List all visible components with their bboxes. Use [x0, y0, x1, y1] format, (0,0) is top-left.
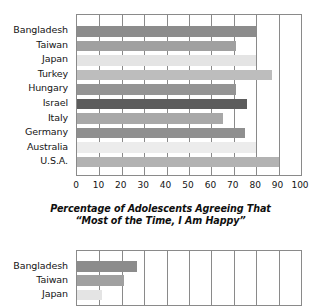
x-tick-label: 90	[266, 181, 290, 190]
category-label: Japan	[42, 289, 72, 299]
bar	[77, 26, 256, 37]
category-label: Hungary	[28, 83, 72, 93]
gridline	[256, 251, 257, 305]
category-label: Bangladesh	[13, 261, 72, 271]
bar	[77, 84, 236, 95]
bar	[77, 55, 256, 66]
gridline	[279, 251, 280, 305]
caption-line-2: “Most of the Time, I Am Happy”	[0, 215, 321, 227]
category-label: Japan	[42, 54, 72, 64]
x-tick-label: 10	[86, 181, 110, 190]
x-tick-label: 20	[109, 181, 133, 190]
category-label: Turkey	[38, 69, 72, 79]
category-label: Germany	[25, 127, 72, 137]
caption-line-1: Percentage of Adolescents Agreeing That	[50, 203, 271, 214]
top-chart-caption: Percentage of Adolescents Agreeing That …	[0, 203, 321, 227]
bar	[77, 128, 245, 139]
x-tick-label: 100	[288, 181, 312, 190]
happiness-chart: BangladeshTaiwanJapanTurkeyHungaryIsrael…	[0, 0, 321, 232]
x-tick-label: 0	[64, 181, 88, 190]
category-label: Taiwan	[36, 40, 72, 50]
category-label: Israel	[43, 98, 72, 108]
second-chart-partial: BangladeshTaiwanJapan	[0, 246, 321, 306]
bottom-chart-plot-area	[76, 250, 302, 306]
gridline	[189, 251, 190, 305]
bar	[77, 290, 102, 301]
top-chart-x-axis-ticks: 0102030405060708090100	[76, 181, 302, 193]
gridline	[167, 251, 168, 305]
x-tick-label: 80	[243, 181, 267, 190]
bar	[77, 99, 247, 110]
category-label: Taiwan	[36, 275, 72, 285]
bar	[77, 261, 137, 272]
gridline	[144, 251, 145, 305]
category-label: Bangladesh	[13, 25, 72, 35]
top-chart-plot-area	[76, 14, 302, 176]
bar	[77, 142, 256, 153]
x-tick-label: 40	[154, 181, 178, 190]
gridline	[211, 251, 212, 305]
category-label: U.S.A.	[40, 156, 72, 166]
gridline	[234, 251, 235, 305]
category-label: Italy	[48, 113, 72, 123]
gridline	[256, 15, 257, 175]
x-tick-label: 30	[131, 181, 155, 190]
x-tick-label: 50	[176, 181, 200, 190]
bar	[77, 157, 279, 168]
bar	[77, 70, 272, 81]
x-tick-label: 70	[221, 181, 245, 190]
bar	[77, 113, 223, 124]
gridline	[279, 15, 280, 175]
x-tick-label: 60	[198, 181, 222, 190]
bar	[77, 275, 124, 286]
bar	[77, 41, 236, 52]
category-label: Australia	[27, 142, 72, 152]
